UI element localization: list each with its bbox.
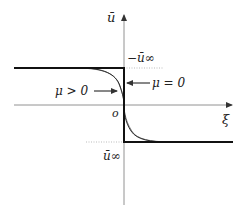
origin-label: o — [112, 107, 119, 120]
xi-axis-label: ξ — [222, 112, 230, 127]
mu-positive-label: μ > 0 — [55, 84, 88, 98]
u-axis-label: ū — [107, 10, 115, 25]
upper-level-label: −ū∞ — [127, 51, 155, 65]
lower-level-label: ū∞ — [103, 149, 121, 163]
step-profile-diagram: ū ξ o −ū∞ ū∞ μ = 0 μ > 0 — [0, 0, 246, 209]
mu-zero-label: μ = 0 — [152, 76, 185, 90]
